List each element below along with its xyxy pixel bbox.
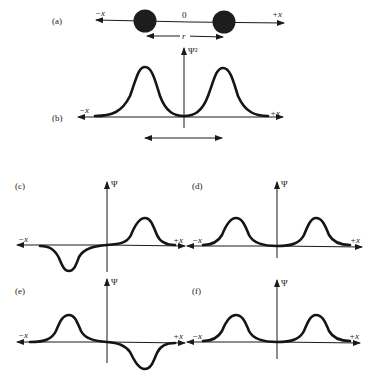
neg-x-label: −x — [95, 8, 105, 18]
pos-x-label: +x — [173, 235, 183, 245]
psi-label: Ψ — [281, 179, 288, 189]
pos-x-label: +x — [349, 331, 359, 341]
panel-f-label: (f) — [192, 286, 201, 296]
panel-d: (d) Ψ −x +x — [187, 179, 362, 258]
panel-e: (e) Ψ −x +x — [15, 277, 185, 369]
origin-label: 0 — [182, 10, 187, 20]
neg-x-label: −x — [79, 105, 89, 115]
pos-x-label: +x — [270, 108, 280, 118]
nucleus-right — [213, 11, 236, 34]
pos-x-label: +x — [173, 331, 183, 341]
psi2-label: Ψ² — [188, 46, 198, 56]
nucleus-left — [134, 10, 157, 33]
wavefunction-diagram: (a) −x +x 0 r (b) Ψ² −x +x (c) Ψ −x +x — [0, 0, 375, 378]
neg-x-label: −x — [192, 331, 202, 341]
panel-f: (f) Ψ −x +x — [187, 278, 360, 359]
panel-c-label: (c) — [15, 181, 25, 191]
neg-x-label: −x — [18, 330, 28, 340]
psi-label: Ψ — [111, 277, 118, 287]
psi-squared-curve — [95, 67, 268, 116]
r-arrow-right — [185, 36, 223, 37]
panel-c: (c) Ψ −x +x — [15, 179, 185, 272]
neg-x-label: −x — [192, 235, 202, 245]
panel-d-label: (d) — [192, 181, 203, 191]
panel-a-label: (a) — [52, 16, 62, 26]
separation-label: r — [182, 31, 186, 41]
panel-e-label: (e) — [15, 286, 25, 296]
pos-x-label: +x — [272, 9, 282, 19]
panel-b-label: (b) — [52, 113, 63, 123]
panel-b: (b) Ψ² −x +x — [52, 46, 283, 138]
neg-x-label: −x — [18, 234, 28, 244]
psi-label: Ψ — [281, 278, 288, 288]
panel-a: (a) −x +x 0 r — [52, 8, 284, 41]
pos-x-axis-arrow — [190, 22, 284, 23]
psi-label: Ψ — [111, 179, 118, 189]
pos-x-label: +x — [350, 235, 360, 245]
